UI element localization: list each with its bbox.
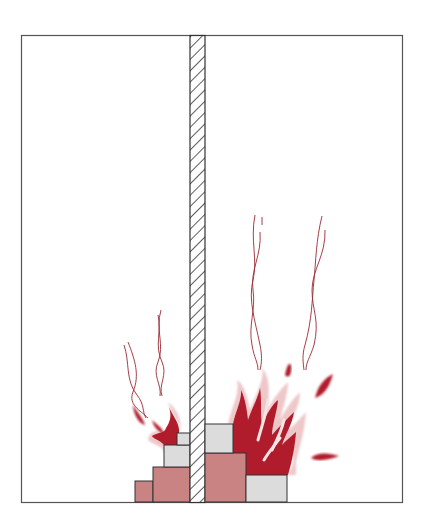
left-fuel-block-gray-mid xyxy=(164,445,190,467)
left-fuel-block-pink-large xyxy=(153,467,190,502)
right-fuel-block-gray-top xyxy=(205,424,233,453)
fire-diagram xyxy=(0,0,425,527)
left-fuel-block-pink-small xyxy=(135,481,153,502)
right-fuel-block-gray-bottom xyxy=(246,475,287,502)
fire-wall xyxy=(190,36,205,503)
left-fuel-block-gray-top xyxy=(177,433,190,445)
right-fuel-block-pink xyxy=(205,453,246,502)
